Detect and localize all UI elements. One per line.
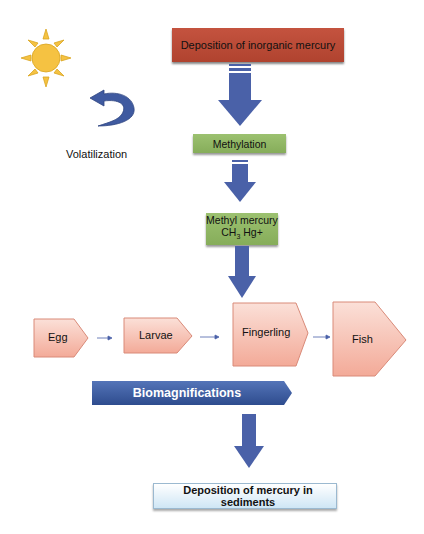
methyl-mercury-formula: CH3 Hg+ [221, 226, 263, 243]
methylation-box: Methylation [193, 134, 286, 153]
methyl-mercury-label: Methyl mercury [206, 214, 278, 226]
sediment-deposition-box: Deposition of mercury in sediments [153, 483, 337, 509]
stage-label-fish: Fish [352, 333, 373, 345]
biomagnification-banner: Biomagnifications [92, 381, 292, 405]
down-arrow-icon [218, 64, 262, 126]
methylation-label: Methylation [213, 138, 267, 150]
down-arrow-icon [234, 414, 264, 468]
volatilization-label: Volatilization [66, 148, 127, 160]
methyl-mercury-box: Methyl mercury CH3 Hg+ [206, 213, 278, 245]
stage-label-larvae: Larvae [139, 329, 173, 341]
sediment-deposition-label: Deposition of mercury in sediments [160, 484, 336, 508]
inorganic-mercury-label: Deposition of inorganic mercury [181, 39, 336, 51]
stage-label-fingerling: Fingerling [242, 326, 290, 338]
sun-icon [20, 28, 72, 88]
stage-label-egg: Egg [48, 331, 68, 343]
biomagnification-label: Biomagnifications [92, 381, 282, 405]
inorganic-mercury-box: Deposition of inorganic mercury [172, 28, 344, 62]
curved-arrow-icon [88, 80, 138, 130]
down-arrow-icon [224, 160, 256, 202]
